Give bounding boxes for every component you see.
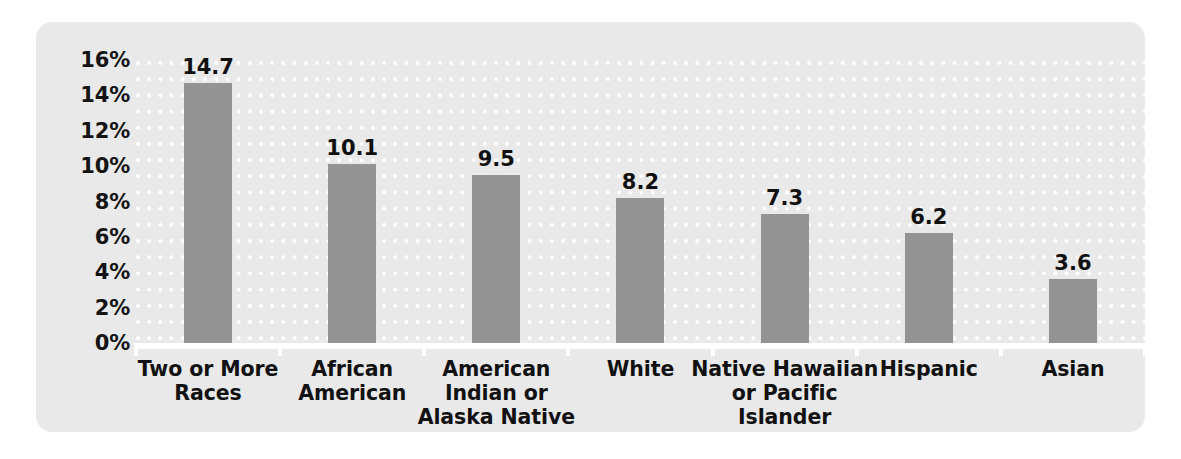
y-axis-tick-label: 16% [68,50,130,71]
bar-group: 6.2 [857,60,1001,343]
x-axis-tick-mark [278,343,282,356]
x-axis-category-label: Hispanic [857,358,1001,382]
chart-panel: 14.710.19.58.27.36.23.6 16%14%12%10%8%6%… [36,22,1145,432]
x-axis-category-label-line: Indian or [396,382,596,406]
bar-group: 14.7 [136,60,280,343]
y-axis-tick-label: 12% [68,121,130,142]
x-axis-tick-mark [855,343,859,356]
bar-value-label: 8.2 [622,172,659,193]
y-axis-tick-label: 2% [68,298,130,319]
x-axis-tick-mark [134,343,138,356]
bar [1049,279,1097,343]
bar-group: 7.3 [713,60,857,343]
bar-group: 9.5 [424,60,568,343]
bar-chart-figure: 14.710.19.58.27.36.23.6 16%14%12%10%8%6%… [0,0,1181,459]
x-axis-tick-mark [422,343,426,356]
x-axis-tick-mark [999,343,1003,356]
x-axis-category-label-line: Asian [1001,358,1145,382]
x-axis-category-label: Two or MoreRaces [136,358,280,406]
x-axis-category-label-line: Races [136,382,280,406]
x-axis-category-label-line: or Pacific Islander [685,382,885,430]
bar [328,164,376,343]
bar-value-label: 14.7 [182,57,234,78]
x-axis-tick-mark [566,343,570,356]
y-axis: 16%14%12%10%8%6%4%2%0% [62,60,130,343]
y-axis-tick-label: 8% [68,192,130,213]
bar [184,83,232,343]
bar-value-label: 3.6 [1054,253,1091,274]
x-axis-category-label-line: American [396,358,596,382]
x-axis-category-label: Asian [1001,358,1145,382]
y-axis-tick-label: 0% [68,333,130,354]
bar-value-label: 6.2 [910,207,947,228]
x-axis-category-label: AmericanIndian orAlaska Native [396,358,596,429]
bar-group: 3.6 [1001,60,1145,343]
y-axis-tick-label: 6% [68,227,130,248]
x-axis-labels: Two or MoreRacesAfricanAmericanAmericanI… [136,358,1145,432]
x-axis-category-label: Native Hawaiianor Pacific Islander [685,358,885,429]
bar-value-label: 10.1 [326,138,378,159]
bar [905,233,953,343]
y-axis-tick-label: 14% [68,85,130,106]
bar [472,175,520,343]
bar [616,198,664,343]
plot-area: 14.710.19.58.27.36.23.6 [136,60,1145,343]
bar-group: 10.1 [280,60,424,343]
y-axis-tick-label: 10% [68,156,130,177]
bar-group: 8.2 [568,60,712,343]
x-axis-category-label-line: Hispanic [857,358,1001,382]
x-axis-category-label-line: Two or More [136,358,280,382]
x-axis-line [136,343,1145,349]
bar-value-label: 7.3 [766,188,803,209]
x-axis-tick-mark [1143,343,1145,356]
bar-value-label: 9.5 [478,149,515,170]
x-axis-tick-mark [711,343,715,356]
bar [761,214,809,343]
x-axis-category-label-line: Alaska Native [396,406,596,430]
y-axis-tick-label: 4% [68,262,130,283]
x-axis-category-label-line: Native Hawaiian [685,358,885,382]
